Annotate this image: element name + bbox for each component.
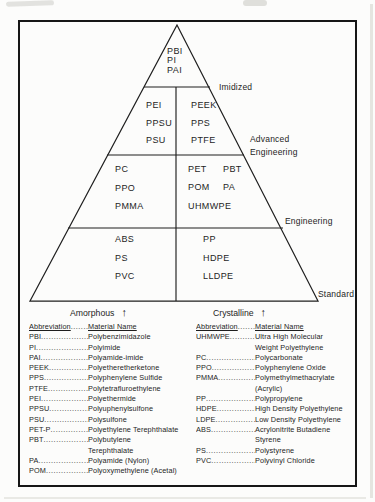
- material-abbr: PPS: [191, 115, 217, 133]
- legend-row: PSPolystyrene: [196, 446, 358, 456]
- material-name: Polyamide-imide: [88, 353, 191, 363]
- level-label-standard: Standard: [318, 289, 354, 299]
- amorphous-axis-label: Amorphous ↑: [70, 308, 127, 318]
- legend-table-crystalline: Abbreviation Material Name UHMWPEUltra H…: [196, 322, 358, 466]
- material-abbreviation: POM: [29, 466, 88, 476]
- material-abbr: PP: [203, 230, 234, 249]
- axis-text: Crystalline: [213, 308, 254, 318]
- legend-row: PPOPolyphenylene Oxide: [196, 363, 358, 373]
- legend-row: PET-PPolyethylene Terephthalate: [29, 425, 191, 435]
- material-abbreviation: PVC: [196, 456, 255, 466]
- legend-row: PTFEPolytetrafluroethylene: [29, 384, 191, 394]
- material-abbr: PVC: [115, 267, 135, 286]
- level-label-imidized: Imidized: [219, 82, 252, 92]
- material-abbr: ABS: [115, 230, 135, 249]
- material-abbr: PA: [223, 182, 235, 192]
- material-name: Polycarbonate: [255, 353, 358, 363]
- material-abbr: PSU: [146, 132, 172, 150]
- material-abbr: PPO: [115, 179, 144, 198]
- up-arrow-icon: ↑: [121, 306, 127, 318]
- legend-row: PSUPolysulfone: [29, 415, 191, 425]
- material-name: High Density Polyethylene: [255, 404, 358, 414]
- legend-row: PCPolycarbonate: [196, 353, 358, 363]
- material-name: Polystyrene: [255, 446, 358, 456]
- material-name: Polyuphenylsulfone: [88, 404, 191, 414]
- legend-row: PPSUPolyuphenylsulfone: [29, 404, 191, 414]
- material-abbr: PMMA: [115, 197, 144, 216]
- material-abbreviation: PBI: [29, 332, 88, 342]
- level-label-advanced-engineering: Advanced Engineering: [250, 133, 298, 158]
- material-name: Polyoxymethylene (Acetal): [88, 466, 191, 476]
- legend-header-material-name: Material Name: [255, 322, 304, 331]
- tier1-materials: PBI PI PAI: [167, 47, 183, 75]
- material-abbr: PET: [188, 164, 207, 174]
- legend-row: PAPolyamide (Nylon): [29, 456, 191, 466]
- legend-row: PBTPolybutylene Terephthalate: [29, 435, 191, 456]
- material-abbr: UHMWPE: [188, 201, 231, 211]
- material-abbr: PAI: [167, 66, 183, 75]
- material-abbreviation: PPS: [29, 373, 88, 383]
- material-abbreviation: LDPE: [196, 415, 255, 425]
- material-abbreviation: ABS: [196, 425, 255, 446]
- legend-header: Abbreviation Material Name: [29, 322, 191, 332]
- legend-header-abbreviation: Abbreviation: [196, 322, 238, 331]
- material-abbreviation: PP: [196, 394, 255, 404]
- legend-row: PIPolyimide: [29, 343, 191, 353]
- material-abbreviation: PA: [29, 456, 88, 466]
- material-abbr: POM: [188, 182, 210, 192]
- material-abbr: PBT: [223, 164, 242, 174]
- material-name: Polypropylene: [255, 394, 358, 404]
- material-name: Polybenzimidazole: [88, 332, 191, 342]
- legend-header-material-name: Material Name: [88, 322, 137, 331]
- material-name: Polyethylene Terephthalate: [88, 425, 191, 435]
- material-abbreviation: PEEK: [29, 363, 88, 373]
- material-name: Polyethermide: [88, 394, 191, 404]
- material-abbreviation: PPO: [196, 363, 255, 373]
- tier2-amorphous-materials: PEI PPSU PSU: [146, 97, 172, 150]
- material-name: Polymethylmethacrylate (Acrylic): [255, 373, 358, 394]
- tier2-crystalline-materials: PEEK PPS PTFE: [191, 97, 217, 150]
- legend-row: PAIPolyamide-imide: [29, 353, 191, 363]
- material-name: Low Density Polyethylene: [255, 415, 358, 425]
- material-name: Ultra High Molecular Weight Polyethylene: [255, 332, 358, 353]
- legend-row: PBIPolybenzimidazole: [29, 332, 191, 342]
- level-label-engineering: Engineering: [285, 216, 333, 226]
- material-abbreviation: PS: [196, 446, 255, 456]
- material-abbr: LLDPE: [203, 267, 234, 286]
- material-abbreviation: PMMA: [196, 373, 255, 394]
- material-abbreviation: PPSU: [29, 404, 88, 414]
- scanned-page: PBI PI PAI PEI PPSU PSU PEEK PPS PTFE PC…: [0, 0, 375, 502]
- legend-row: PEEKPolyetheretherketone: [29, 363, 191, 373]
- material-name: Polyphenylene Sulfide: [88, 373, 191, 383]
- material-abbreviation: PAI: [29, 353, 88, 363]
- legend-row: PPSPolyphenylene Sulfide: [29, 373, 191, 383]
- material-abbr: PPSU: [146, 115, 172, 133]
- material-abbreviation: PC: [196, 353, 255, 363]
- legend-row: ABSAcrylonitrite Butadiene Styrene: [196, 425, 358, 446]
- legend-row: PEIPolyethermide: [29, 394, 191, 404]
- material-name: Polyamide (Nylon): [88, 456, 191, 466]
- legend-row: UHMWPEUltra High Molecular Weight Polyet…: [196, 332, 358, 353]
- tier4-crystalline-materials: PP HDPE LLDPE: [203, 230, 234, 286]
- legend-row: PVCPolyvinyl Chloride: [196, 456, 358, 466]
- material-name: Polyphenylene Oxide: [255, 363, 358, 373]
- material-abbr: HDPE: [203, 249, 234, 268]
- material-abbreviation: PSU: [29, 415, 88, 425]
- material-name: Polybutylene Terephthalate: [88, 435, 191, 456]
- material-name: Polyvinyl Chloride: [255, 456, 358, 466]
- material-abbreviation: UHMWPE: [196, 332, 255, 353]
- material-name: Polyimide: [88, 343, 191, 353]
- material-abbreviation: PTFE: [29, 384, 88, 394]
- legend-header-abbreviation: Abbreviation: [29, 322, 71, 331]
- tier4-amorphous-materials: ABS PS PVC: [115, 230, 135, 286]
- material-abbr: PEI: [146, 97, 172, 115]
- axis-text: Amorphous: [70, 308, 114, 318]
- material-abbr: PS: [115, 249, 135, 268]
- legend-row: PMMAPolymethylmethacrylate (Acrylic): [196, 373, 358, 394]
- material-name: Polysulfone: [88, 415, 191, 425]
- up-arrow-icon: ↑: [261, 306, 267, 318]
- material-name: Polyetheretherketone: [88, 363, 191, 373]
- material-name: Polytetrafluroethylene: [88, 384, 191, 394]
- material-abbreviation: PEI: [29, 394, 88, 404]
- material-abbr: PC: [115, 160, 144, 179]
